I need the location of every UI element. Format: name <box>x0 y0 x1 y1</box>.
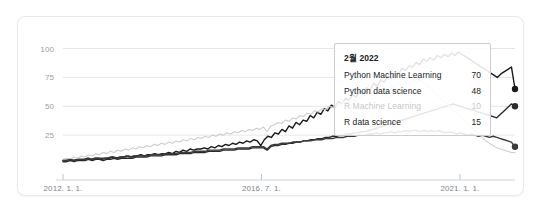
tooltip-row: R Machine Learning10 <box>344 101 481 111</box>
tooltip-series-rows: Python Machine Learning70Python data sci… <box>344 70 481 127</box>
tooltip-row: R data science15 <box>344 117 481 127</box>
x-axis-label-2: 2021. 1. 1. <box>440 184 479 193</box>
x-axis-label-1: 2016. 7. 1. <box>242 184 281 193</box>
tooltip-series-name: R data science <box>344 117 401 127</box>
chart-hover-tooltip: 2월 2022 Python Machine Learning70Python … <box>334 43 491 136</box>
tooltip-series-name: Python data science <box>344 86 422 96</box>
x-axis-label-0: 2012. 1. 1. <box>44 184 83 193</box>
tooltip-series-name: Python Machine Learning <box>344 70 442 80</box>
tooltip-series-value: 70 <box>467 70 481 80</box>
tooltip-series-name: R Machine Learning <box>344 101 421 111</box>
tooltip-series-value: 48 <box>467 86 481 96</box>
tooltip-row: Python data science48 <box>344 86 481 96</box>
google-trends-chart-screenshot: 100755025 2012. 1. 1.2016. 7. 1.2021. 1.… <box>0 0 544 210</box>
tooltip-series-value: 10 <box>467 101 481 111</box>
tooltip-date-title: 2월 2022 <box>344 51 481 63</box>
tooltip-row: Python Machine Learning70 <box>344 70 481 80</box>
tooltip-series-value: 15 <box>467 117 481 127</box>
trends-chart-card: 100755025 2012. 1. 1.2016. 7. 1.2021. 1.… <box>17 16 524 196</box>
